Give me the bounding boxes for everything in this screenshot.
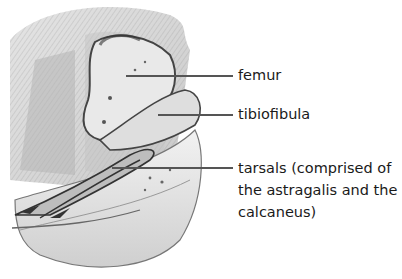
femur-leader-line <box>126 75 233 77</box>
label-femur: femur <box>238 65 281 85</box>
label-tibiofibula: tibiofibula <box>238 104 310 124</box>
leg-sketch-illustration <box>0 0 402 279</box>
tibiofibula-leader-line <box>158 114 233 116</box>
tarsals-leader-line <box>112 167 233 169</box>
label-tarsals: tarsals (comprised of the astragalis and… <box>238 157 397 223</box>
anatomy-figure: femur tibiofibula tarsals (comprised of … <box>0 0 402 279</box>
